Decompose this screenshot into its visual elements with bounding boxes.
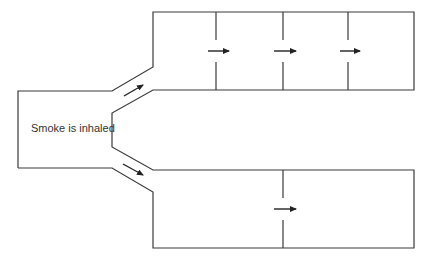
- arrow-right-icon: [124, 85, 143, 96]
- arrow-right-icon: [123, 164, 143, 175]
- flow-arrows: [123, 51, 360, 209]
- smoke-inhaled-label: Smoke is inhaled: [31, 122, 115, 134]
